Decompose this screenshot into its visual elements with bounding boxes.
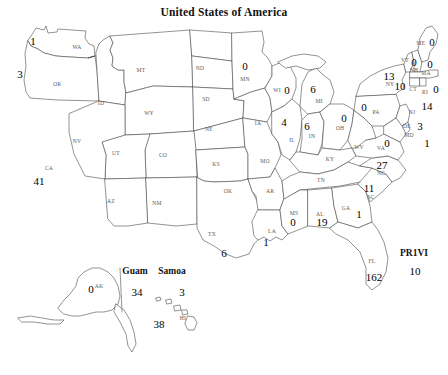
territory-label-guam: Guam <box>122 266 147 276</box>
state-value-mn: 0 <box>242 60 248 72</box>
territory-value-guam: 34 <box>132 286 143 298</box>
state-value-wa: 1 <box>30 35 36 47</box>
state-value-va: 0 <box>384 137 390 149</box>
territory-value-pr1vi: 10 <box>410 265 421 277</box>
contiguous-states-outline <box>24 26 438 290</box>
state-value-me: 0 <box>429 36 435 48</box>
state-value-ri: 0 <box>433 83 439 95</box>
state-value-sc: 11 <box>364 182 375 194</box>
state-value-il: 4 <box>281 116 287 128</box>
state-value-ca: 41 <box>34 175 45 187</box>
state-value-pa: 0 <box>361 101 367 113</box>
state-value-la: 1 <box>263 236 269 248</box>
us-map-outlines <box>0 0 448 375</box>
state-value-wi: 0 <box>284 84 290 96</box>
territory-value-samoa: 3 <box>179 286 185 298</box>
state-value-ct: 10 <box>395 80 406 92</box>
state-value-md: 1 <box>424 137 430 149</box>
territory-label-samoa: Samoa <box>158 266 185 276</box>
state-value-nj: 14 <box>422 100 433 112</box>
state-value-ak: 0 <box>88 283 94 295</box>
state-value-ms: 0 <box>290 216 296 228</box>
state-value-nh: 0 <box>411 56 417 68</box>
state-value-or: 3 <box>17 68 23 80</box>
state-value-ny: 13 <box>384 70 395 82</box>
alaska-outline <box>18 268 136 352</box>
state-value-mi: 6 <box>310 83 316 95</box>
territory-label-pr1vi: PR1VI <box>400 248 428 258</box>
state-value-de: 3 <box>417 120 423 132</box>
state-value-fl: 162 <box>366 271 383 283</box>
state-value-tx: 6 <box>221 247 227 259</box>
us-map-figure: United States of America <box>0 0 448 375</box>
state-value-oh: 0 <box>341 112 347 124</box>
state-value-ma: 0 <box>427 58 433 70</box>
state-value-ga: 1 <box>356 208 362 220</box>
state-value-al: 19 <box>317 216 328 228</box>
state-value-in: 6 <box>304 120 310 132</box>
state-value-hi: 38 <box>154 318 165 330</box>
state-value-nc: 27 <box>377 159 388 171</box>
